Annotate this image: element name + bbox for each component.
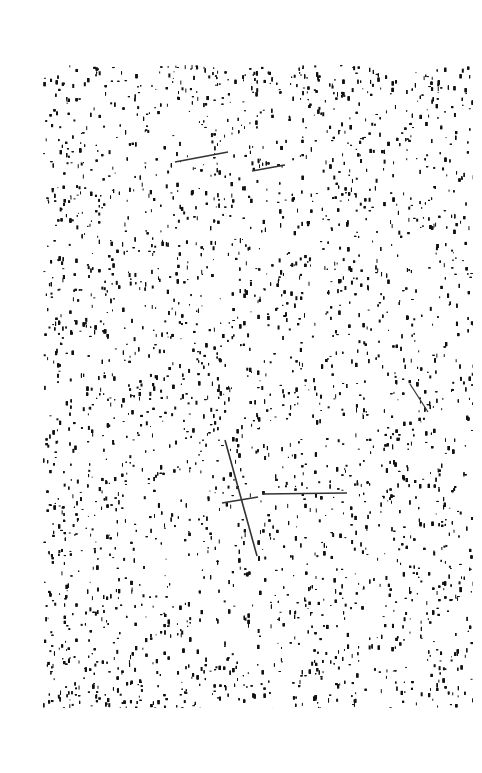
scanned-page xyxy=(0,0,482,773)
speckle-texture-field xyxy=(43,65,473,708)
texture-canvas xyxy=(43,65,473,708)
